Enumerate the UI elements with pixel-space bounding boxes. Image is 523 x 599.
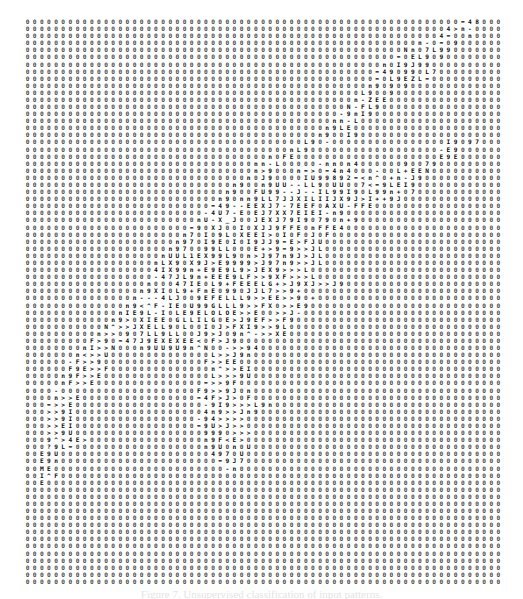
glyph-cell: 0 [60, 479, 67, 486]
glyph-cell: 0 [231, 117, 238, 124]
glyph-cell: > [95, 351, 102, 358]
glyph-cell: 0 [224, 153, 231, 160]
glyph-cell: 0 [45, 18, 52, 25]
glyph-cell: 0 [267, 68, 274, 75]
glyph-cell: 7 [317, 216, 324, 223]
glyph-cell: J [131, 323, 138, 330]
glyph-cell: 0 [174, 96, 181, 103]
glyph-cell: > [267, 323, 274, 330]
glyph-cell: 0 [302, 110, 309, 117]
glyph-cell: 0 [160, 387, 167, 394]
glyph-cell: 0 [252, 32, 259, 39]
glyph-cell: 0 [374, 542, 381, 549]
glyph-cell: 0 [31, 302, 38, 309]
glyph-cell: 0 [24, 472, 31, 479]
glyph-cell: 0 [202, 53, 209, 60]
glyph-cell: 0 [267, 472, 274, 479]
glyph-cell: < [366, 181, 373, 188]
glyph-cell: 0 [459, 146, 466, 153]
glyph-cell: L [309, 181, 316, 188]
glyph-cell: 0 [481, 188, 488, 195]
glyph-cell: 0 [38, 387, 45, 394]
glyph-cell: 0 [167, 351, 174, 358]
glyph-cell: 0 [74, 550, 81, 557]
glyph-cell: 0 [338, 323, 345, 330]
glyph-cell: 0 [202, 564, 209, 571]
glyph-cell: I [317, 209, 324, 216]
glyph-cell: n [145, 280, 152, 287]
glyph-cell: 0 [138, 500, 145, 507]
glyph-cell: 0 [331, 436, 338, 443]
glyph-cell: 0 [352, 542, 359, 549]
glyph-cell: 0 [452, 259, 459, 266]
glyph-cell: 0 [245, 153, 252, 160]
glyph-cell: 0 [452, 202, 459, 209]
glyph-cell: 0 [395, 252, 402, 259]
glyph-cell: 0 [95, 415, 102, 422]
glyph-cell: 0 [102, 394, 109, 401]
glyph-cell: 0 [395, 110, 402, 117]
glyph-cell: 9 [181, 344, 188, 351]
glyph-cell: 0 [366, 500, 373, 507]
glyph-cell: 0 [117, 188, 124, 195]
glyph-cell: 0 [88, 32, 95, 39]
glyph-cell: 0 [495, 394, 502, 401]
glyph-cell: 7 [181, 245, 188, 252]
glyph-cell: 0 [374, 245, 381, 252]
glyph-cell: 0 [495, 472, 502, 479]
glyph-cell: 0 [409, 209, 416, 216]
glyph-cell: 0 [124, 521, 131, 528]
glyph-cell: 0 [160, 557, 167, 564]
glyph-cell: 0 [88, 542, 95, 549]
glyph-cell: 0 [152, 82, 159, 89]
glyph-cell: 0 [95, 153, 102, 160]
glyph-cell: E [252, 202, 259, 209]
glyph-cell: 0 [252, 550, 259, 557]
glyph-cell: 0 [459, 443, 466, 450]
glyph-cell: 0 [381, 110, 388, 117]
glyph-cell: 0 [459, 181, 466, 188]
glyph-cell: 0 [145, 514, 152, 521]
glyph-cell: 0 [309, 287, 316, 294]
glyph-cell: 0 [352, 39, 359, 46]
glyph-cell: n [267, 153, 274, 160]
glyph-cell: 0 [459, 103, 466, 110]
glyph-cell: 0 [88, 231, 95, 238]
glyph-cell: - [152, 309, 159, 316]
glyph-cell: 0 [174, 160, 181, 167]
glyph-cell: 0 [495, 195, 502, 202]
glyph-cell: 0 [445, 372, 452, 379]
glyph-cell: 0 [331, 330, 338, 337]
glyph-cell: 0 [331, 394, 338, 401]
glyph-cell: 0 [217, 578, 224, 585]
glyph-cell: 0 [145, 422, 152, 429]
glyph-cell: 0 [466, 578, 473, 585]
glyph-cell: 0 [31, 96, 38, 103]
glyph-cell: 0 [74, 117, 81, 124]
glyph-cell: 0 [45, 138, 52, 145]
glyph-cell: 0 [324, 245, 331, 252]
glyph-cell: X [259, 202, 266, 209]
glyph-cell: 0 [302, 46, 309, 53]
glyph-cell: 0 [245, 465, 252, 472]
glyph-cell: 0 [81, 167, 88, 174]
glyph-cell: 0 [374, 479, 381, 486]
glyph-cell: 0 [138, 46, 145, 53]
glyph-cell: 0 [60, 323, 67, 330]
glyph-cell: 0 [259, 110, 266, 117]
glyph-cell: E [60, 422, 67, 429]
glyph-cell: 0 [88, 309, 95, 316]
glyph-cell: 0 [488, 188, 495, 195]
glyph-cell: 0 [188, 379, 195, 386]
glyph-cell: 0 [302, 429, 309, 436]
glyph-cell: 0 [145, 429, 152, 436]
glyph-cell: 0 [395, 124, 402, 131]
glyph-cell: 0 [231, 61, 238, 68]
glyph-cell: 0 [217, 167, 224, 174]
glyph-cell: 0 [124, 103, 131, 110]
glyph-cell: 0 [195, 557, 202, 564]
glyph-cell: 0 [495, 365, 502, 372]
glyph-cell: 0 [309, 337, 316, 344]
glyph-cell: 0 [24, 550, 31, 557]
glyph-cell: 0 [145, 195, 152, 202]
